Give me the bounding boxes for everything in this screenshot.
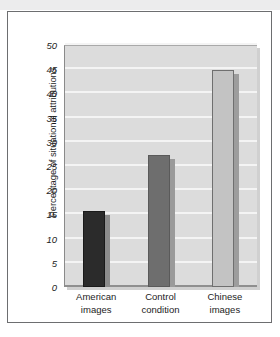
bar-face [212, 70, 234, 287]
x-axis-tick-label: Chineseimages [188, 290, 262, 316]
y-axis-tick-label: 20 [46, 185, 57, 196]
y-axis-tick-label: 45 [46, 64, 57, 75]
y-axis-tick-label: 35 [46, 112, 57, 123]
y-axis-tick-label: 15 [46, 209, 57, 220]
x-axis-tick-label-line: images [59, 303, 133, 316]
y-axis-tick-label: 40 [46, 88, 57, 99]
bar [148, 155, 176, 287]
y-axis-tick-label: 50 [46, 40, 57, 51]
y-axis-tick-label: 5 [52, 257, 57, 268]
y-axis-tick-label: 10 [46, 233, 57, 244]
bars-layer [65, 46, 257, 287]
y-axis-tick-labels: 05101520253035404550 [8, 45, 62, 287]
x-axis-tick-label-line: American [59, 290, 133, 303]
x-axis-tick-label-line: Control [124, 290, 198, 303]
x-axis-tick-labels: AmericanimagesControlconditionChineseima… [64, 290, 257, 336]
bar [83, 211, 111, 287]
x-axis-tick-label-line: images [188, 303, 262, 316]
figure-root: Percentage of situational attributions 0… [0, 0, 280, 337]
plot-area [64, 45, 257, 287]
y-axis-tick-label: 0 [52, 282, 57, 293]
top-band [0, 0, 280, 10]
bar-face [83, 211, 105, 287]
y-axis-tick-label: 25 [46, 161, 57, 172]
x-axis-tick-label: Americanimages [59, 290, 133, 316]
y-axis-tick-label: 30 [46, 136, 57, 147]
x-axis-tick-label: Controlcondition [124, 290, 198, 316]
bar-face [148, 155, 170, 287]
bar [212, 70, 240, 287]
gridline [65, 43, 257, 45]
x-axis-tick-label-line: Chinese [188, 290, 262, 303]
x-axis-tick-label-line: condition [124, 303, 198, 316]
chart-frame: Percentage of situational attributions 0… [7, 11, 272, 323]
